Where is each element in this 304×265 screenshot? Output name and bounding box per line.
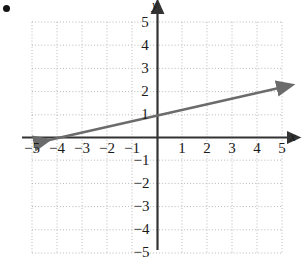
y-tick-label--2: −2 [131,176,152,191]
x-tick-label--2: −2 [97,141,117,156]
bullet-marker-icon [3,5,10,12]
axes [22,12,289,250]
x-tick-label-1: 1 [174,141,190,156]
y-tick-label--4: −4 [131,222,152,237]
x-tick-label-3: 3 [224,141,240,156]
y-tick-label-3: 3 [138,61,152,76]
y-tick-label-2: 2 [138,84,152,99]
y-tick-label-1: 1 [138,107,152,122]
x-tick-label-2: 2 [199,141,215,156]
y-tick-label--1: −1 [131,153,152,168]
x-tick-label--5: −5 [22,141,42,156]
y-axis-label: y [152,0,158,13]
graph-svg [0,0,304,265]
y-tick-label-5: 5 [138,15,152,30]
x-tick-label--4: −4 [47,141,67,156]
y-tick-label-4: 4 [138,38,152,53]
y-tick-label--5: −5 [131,245,152,260]
x-tick-label--3: −3 [72,141,92,156]
x-axis-label: x [290,129,296,145]
x-tick-label-4: 4 [249,141,265,156]
y-tick-label--3: −3 [131,199,152,214]
x-tick-label-5: 5 [274,141,290,156]
coordinate-plane-figure: −5 −4 −3 −2 −1 1 2 3 4 5 5 4 3 2 1 −1 −2… [0,0,304,265]
